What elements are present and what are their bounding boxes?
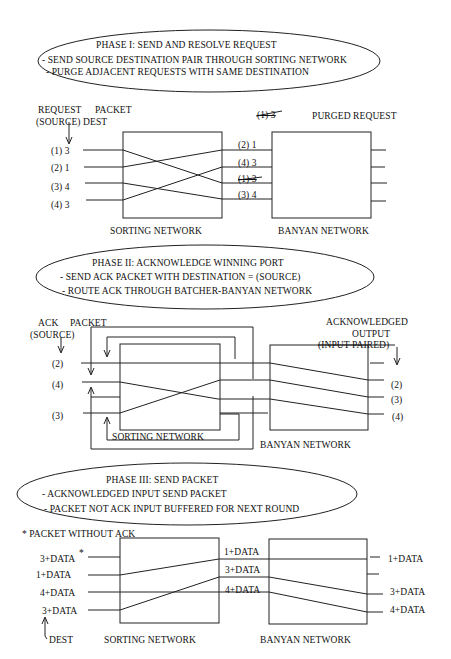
phase1-sorting-network-box	[123, 132, 222, 218]
phase1-bullet-2: - PURGE ADJACENT REQUESTS WITH SAME DEST…	[46, 67, 309, 78]
phase3-input-3: 4+DATA	[40, 588, 75, 599]
phase1-sorting-label: SORTING NETWORK	[110, 226, 202, 237]
phase1-purged-label: PURGED REQUEST	[312, 111, 397, 122]
phase2-output-3: (4)	[392, 412, 403, 423]
phase1-title: PHASE I: SEND AND RESOLVE REQUEST	[96, 40, 277, 51]
phase2-ack-output-line-3: (INPUT PAIRED)	[318, 340, 389, 351]
phase3-input-2: 1+DATA	[36, 570, 71, 581]
phase2-bullet-1: - SEND ACK PACKET WITH DESTINATION = (SO…	[60, 272, 301, 283]
phase3-title: PHASE III: SEND PACKET	[106, 475, 218, 486]
phase3-input-star: *	[79, 548, 84, 559]
phase2-header-source: (SOURCE)	[30, 330, 75, 341]
phase2-sorting-network-box	[120, 344, 220, 430]
phase3-sorting-network-box	[120, 538, 219, 623]
phase2-input-1: (2)	[52, 359, 63, 370]
phase1-bullet-1: - SEND SOURCE DESTINATION PAIR THROUGH S…	[42, 55, 347, 66]
phase2-output-1: (2)	[391, 380, 402, 391]
phase1-input-3: (3) 4	[51, 182, 70, 193]
phase1-input-2: (2) 1	[51, 163, 70, 174]
phase2-banyan-network-box	[270, 345, 368, 430]
phase2-banyan-label: BANYAN NETWORK	[260, 440, 351, 451]
phase3-bullet-2: - PACKET NOT ACK INPUT BUFFERED FOR NEXT…	[44, 504, 299, 515]
phase2-ack-output-line-1: ACKNOWLEDGED	[326, 317, 408, 328]
phase3-banyan-label: BANYAN NETWORK	[260, 635, 351, 646]
phase1-sorted-output-3-purged: (1) 3	[238, 174, 257, 185]
phase2-input-3: (3)	[52, 411, 63, 422]
phase1-sorted-output-4: (3) 4	[238, 190, 257, 201]
phase3-input-4: 3+DATA	[42, 606, 77, 617]
phase3-bullet-1: - ACKNOWLEDGED INPUT SEND PACKET	[42, 489, 227, 500]
phase2-sorting-label: SORTING NETWORK	[112, 432, 204, 443]
phase1-header-packet: PACKET	[95, 105, 132, 116]
phase1-input-1: (1) 3	[51, 146, 70, 157]
phase3-sorted-output-3: 4+DATA	[225, 585, 260, 596]
phase1-sorted-output-1: (2) 1	[238, 140, 257, 151]
phase1-input-4: (4) 3	[51, 200, 70, 211]
phase1-banyan-network-box	[272, 132, 371, 218]
phase3-output-3: 4+DATA	[390, 605, 425, 616]
phase1-banyan-label: BANYAN NETWORK	[278, 226, 369, 237]
phase2-header-packet: PACKET	[70, 318, 107, 329]
phase2-output-2: (3)	[391, 395, 402, 406]
phase3-output-2: 3+DATA	[390, 587, 425, 598]
phase2-header-ack: ACK	[38, 318, 58, 329]
phase3-output-1: 1+DATA	[388, 554, 423, 565]
phase2-input-2: (4)	[52, 380, 63, 391]
phase3-sorted-output-1: 1+DATA	[224, 547, 259, 558]
phase1-header-request: REQUEST	[38, 105, 81, 116]
phase2-title: PHASE II: ACKNOWLEDGE WINNING PORT	[92, 258, 284, 269]
phase3-banyan-network-box	[269, 539, 367, 624]
phase2-bullet-2: - ROUTE ACK THROUGH BATCHER-BANYAN NETWO…	[62, 286, 312, 297]
phase1-sorted-output-2: (4) 3	[238, 158, 257, 169]
phase2-ack-output-line-2: OUTPUT	[352, 329, 390, 340]
phase3-footnote: * PACKET WITHOUT ACK	[22, 529, 135, 540]
phase3-dest-label: DEST	[49, 635, 73, 646]
phase3-sorted-output-2: 3+DATA	[225, 565, 260, 576]
phase3-input-1: 3+DATA	[40, 554, 75, 565]
phase3-sorting-label: SORTING NETWORK	[104, 635, 196, 646]
phase1-header-source-dest: (SOURCE) DEST	[36, 117, 107, 128]
phase1-purged-example: (1) 3	[257, 110, 276, 121]
